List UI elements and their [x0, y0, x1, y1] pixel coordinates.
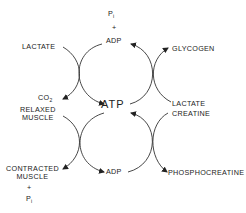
upper-cycle-left-arc	[79, 44, 104, 104]
lower-cycle-left-arc	[80, 113, 104, 172]
relaxed-muscle-label: RELAXEDMUSCLE	[20, 106, 56, 122]
right-lactate-label: LACTATE	[172, 100, 205, 108]
lower-cycle-right-arc	[128, 113, 152, 172]
left-pi-label: Pi	[26, 195, 33, 205]
creatine-label: CREATINE	[172, 110, 210, 118]
left-upper-arc	[63, 47, 80, 99]
left-lactate-label: LACTATE	[22, 43, 55, 51]
adp-top-label: ADP	[106, 37, 122, 45]
left-plus-label: +	[27, 184, 32, 192]
upper-cycle-right-arc	[130, 44, 153, 104]
right-lower-arc	[153, 113, 168, 172]
co2-label: CO2	[38, 94, 52, 104]
left-lower-arc	[63, 116, 80, 169]
right-upper-arc	[153, 48, 171, 102]
adp-bottom-label: ADP	[106, 168, 122, 176]
glycogen-label: GLYCOGEN	[172, 45, 215, 53]
top-pi-label: Pi	[108, 10, 115, 20]
phosphocreatine-label: PHOSPHOCREATINE	[168, 169, 244, 177]
top-plus-label: +	[112, 24, 117, 32]
contracted-muscle-label: CONTRACTEDMUSCLE	[6, 165, 59, 181]
atp-label: ATP	[101, 100, 125, 108]
